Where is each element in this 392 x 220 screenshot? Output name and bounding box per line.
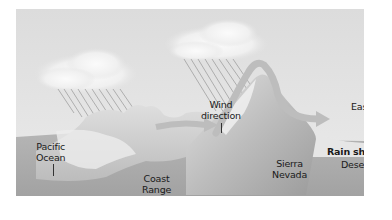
terrain-illustration [16, 9, 364, 196]
label-rain-shadow: Rain shadow [327, 146, 364, 157]
label-sierra-nevada: Sierra Nevada [272, 158, 307, 180]
label-desert: Desert [341, 159, 364, 170]
label-pacific-ocean: Pacific Ocean [36, 141, 65, 163]
rain-shadow-diagram: Pacific Ocean Wind direction East Rain s… [16, 9, 364, 196]
label-east: East [351, 101, 364, 112]
leader-wind-direction [221, 123, 222, 133]
leader-pacific-ocean [53, 164, 54, 176]
label-wind-direction: Wind direction [201, 99, 241, 121]
label-coast-range: Coast Range [142, 173, 171, 195]
